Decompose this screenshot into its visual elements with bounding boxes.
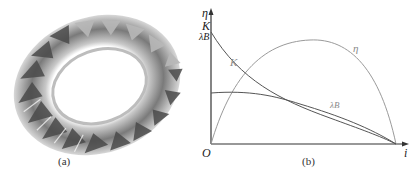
x-axis-label: i xyxy=(404,146,407,161)
characteristic-curves xyxy=(190,0,415,181)
caption-a: (a) xyxy=(58,155,70,167)
panel-b-characteristic-chart: η K λB O i K η λB (b) xyxy=(190,0,415,181)
caption-b: (b) xyxy=(302,155,315,167)
origin-label: O xyxy=(202,146,211,161)
curve-label-lambda: λB xyxy=(330,100,339,110)
curve-label-K: K xyxy=(230,56,237,68)
turbine-runner-image xyxy=(0,0,200,181)
y-label-lambda: λB xyxy=(199,31,209,42)
panel-a-turbine-render: (a) xyxy=(0,0,200,181)
curve-label-eta: η xyxy=(353,42,358,54)
K-curve xyxy=(211,32,396,144)
y-axis-arrow-icon xyxy=(209,8,214,15)
lambda-curve xyxy=(211,92,396,144)
